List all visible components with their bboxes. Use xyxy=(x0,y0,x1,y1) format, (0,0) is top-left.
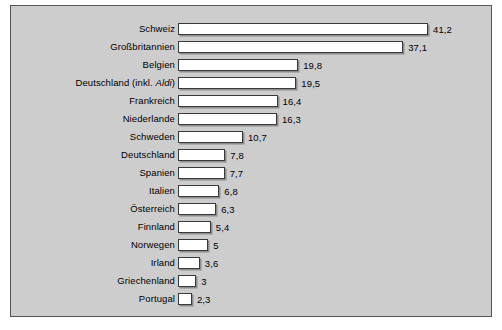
bar xyxy=(178,95,278,107)
bar-value-label: 3,6 xyxy=(205,258,219,269)
bar-track xyxy=(178,293,192,305)
bar-row: Spanien7,7 xyxy=(11,164,491,182)
category-label: Belgien xyxy=(11,59,175,71)
bar-track xyxy=(178,257,200,269)
bar xyxy=(178,275,196,287)
category-label: Schweden xyxy=(11,131,175,143)
category-label: Griechenland xyxy=(11,275,175,287)
bar xyxy=(178,203,216,215)
bar-value-label: 5 xyxy=(213,240,218,251)
bar-row: Irland3,6 xyxy=(11,254,491,272)
bar-value-label: 7,7 xyxy=(230,168,244,179)
bar xyxy=(178,167,225,179)
category-label: Großbritannien xyxy=(11,41,175,53)
bar xyxy=(178,221,211,233)
bar-row: Norwegen5 xyxy=(11,236,491,254)
bar xyxy=(178,23,428,35)
category-label: Österreich xyxy=(11,203,175,215)
bar-value-label: 5,4 xyxy=(216,222,230,233)
bar-row: Niederlande16,3 xyxy=(11,110,491,128)
bar xyxy=(178,131,243,143)
bar-value-label: 37,1 xyxy=(408,42,427,53)
bar-row: Schweden10,7 xyxy=(11,128,491,146)
bar xyxy=(178,149,225,161)
bar-value-label: 10,7 xyxy=(248,132,267,143)
bar-track xyxy=(178,113,277,125)
bar-row: Belgien19,8 xyxy=(11,56,491,74)
bar-track xyxy=(178,149,225,161)
bar-row: Portugal2,3 xyxy=(11,290,491,308)
bar xyxy=(178,293,192,305)
bar-row: Finnland5,4 xyxy=(11,218,491,236)
bar-row: Griechenland3 xyxy=(11,272,491,290)
bar-row: Deutschland (inkl. Aldi)19,5 xyxy=(11,74,491,92)
category-label: Deutschland xyxy=(11,149,175,161)
category-label: Finnland xyxy=(11,221,175,233)
category-label: Schweiz xyxy=(11,23,175,35)
bar-track xyxy=(178,23,428,35)
bar xyxy=(178,77,296,89)
bar-value-label: 41,2 xyxy=(433,24,452,35)
bar-value-label: 16,3 xyxy=(282,114,301,125)
bar-row: Deutschland7,8 xyxy=(11,146,491,164)
bar-value-label: 6,3 xyxy=(221,204,235,215)
bar xyxy=(178,113,277,125)
category-label: Frankreich xyxy=(11,95,175,107)
bar-value-label: 2,3 xyxy=(197,294,211,305)
bar-track xyxy=(178,41,403,53)
category-label: Italien xyxy=(11,185,175,197)
bar xyxy=(178,257,200,269)
category-label: Deutschland (inkl. Aldi) xyxy=(11,77,175,89)
bar-track xyxy=(178,185,219,197)
bar-track xyxy=(178,275,196,287)
bar-row: Österreich6,3 xyxy=(11,200,491,218)
bar-track xyxy=(178,59,298,71)
category-label: Irland xyxy=(11,257,175,269)
bar-value-label: 16,4 xyxy=(283,96,302,107)
bar xyxy=(178,185,219,197)
bar-row: Frankreich16,4 xyxy=(11,92,491,110)
category-label-italic-part: Aldi xyxy=(155,77,171,88)
category-label: Niederlande xyxy=(11,113,175,125)
bar xyxy=(178,239,208,251)
bar xyxy=(178,59,298,71)
category-label: Portugal xyxy=(11,293,175,305)
category-label: Norwegen xyxy=(11,239,175,251)
bar-row: Schweiz41,2 xyxy=(11,20,491,38)
bar-value-label: 6,8 xyxy=(224,186,238,197)
bar-track xyxy=(178,221,211,233)
bar-value-label: 7,8 xyxy=(230,150,244,161)
bar xyxy=(178,41,403,53)
bar-value-label: 3 xyxy=(201,276,206,287)
bar-value-label: 19,8 xyxy=(303,60,322,71)
bar-track xyxy=(178,95,278,107)
category-label: Spanien xyxy=(11,167,175,179)
bar-row: Italien6,8 xyxy=(11,182,491,200)
bar-row: Großbritannien37,1 xyxy=(11,38,491,56)
bar-value-label: 19,5 xyxy=(301,78,320,89)
bar-track xyxy=(178,131,243,143)
bar-track xyxy=(178,239,208,251)
bar-track xyxy=(178,203,216,215)
bar-rows-container: Schweiz41,2Großbritannien37,1Belgien19,8… xyxy=(11,20,491,308)
chart-frame: Schweiz41,2Großbritannien37,1Belgien19,8… xyxy=(10,5,492,317)
bar-track xyxy=(178,77,296,89)
bar-track xyxy=(178,167,225,179)
